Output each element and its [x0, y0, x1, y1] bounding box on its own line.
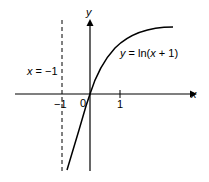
asymptote-label: x = −1 — [26, 65, 58, 77]
x-axis-label: x — [190, 88, 197, 100]
tick-label-neg1: −1 — [54, 98, 67, 110]
y-axis-arrow-icon — [87, 19, 94, 26]
y-axis-label: y — [85, 6, 93, 18]
graph: x y x = −1 −1 1 0 y = ln(x + 1) — [0, 0, 209, 182]
curve-equation-label: y = ln(x + 1) — [119, 47, 178, 59]
tick-label-1: 1 — [117, 98, 123, 110]
